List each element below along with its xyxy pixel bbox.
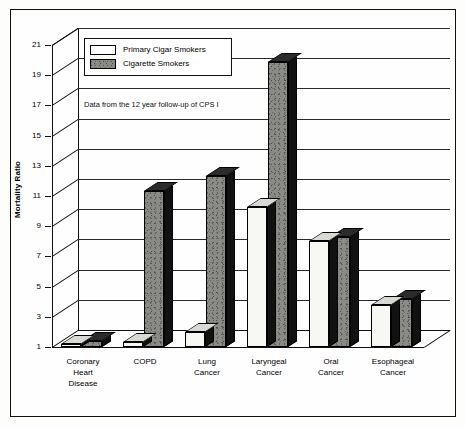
y-axis-tick (45, 317, 51, 318)
bar-side-face (288, 56, 297, 347)
bar-cigarette-smokers (144, 191, 164, 347)
bar-face (123, 342, 143, 347)
gridline-riser (52, 119, 79, 137)
y-axis-tick (45, 287, 51, 288)
y-axis-tick-label: 11 (19, 191, 41, 200)
y-axis-tick-label: 5 (19, 282, 41, 291)
y-axis-tick-label: 21 (19, 40, 41, 49)
gridline-riser (52, 88, 79, 106)
legend-swatch-grey (90, 59, 116, 69)
y-axis-tick-label: 17 (19, 100, 41, 109)
bar-primary-cigar-smokers (309, 241, 329, 347)
y-axis-tick (45, 166, 51, 167)
y-axis-tick (45, 105, 51, 106)
gridline (78, 88, 450, 89)
gridline (78, 119, 450, 120)
bar-face (185, 332, 205, 347)
chart-annotation: Data from the 12 year follow-up of CPS I (84, 100, 219, 109)
y-axis-tick-label: 1 (19, 342, 41, 351)
y-axis-tick-label: 3 (19, 312, 41, 321)
bar-side-face (226, 171, 235, 347)
bar-side-face (412, 293, 421, 347)
bar-face (61, 344, 81, 347)
legend-label-cigarette-smokers: Cigarette Smokers (123, 59, 189, 69)
y-axis-tick (45, 75, 51, 76)
bar-primary-cigar-smokers (371, 305, 391, 347)
bar-face (206, 176, 226, 347)
gridline (78, 149, 450, 150)
bar-primary-cigar-smokers (185, 332, 205, 347)
y-axis-tick-label: 9 (19, 221, 41, 230)
gridline-riser (52, 149, 79, 167)
gridline-riser (52, 28, 79, 46)
bar-face (371, 305, 391, 347)
bar-face (247, 207, 267, 347)
gridline (78, 179, 450, 180)
y-axis-tick-label: 15 (19, 131, 41, 140)
gridline-riser (52, 270, 79, 288)
y-axis-tick-label: 7 (19, 251, 41, 260)
y-axis-tick (45, 196, 51, 197)
bar-side-face (350, 231, 359, 347)
bar-primary-cigar-smokers (123, 342, 143, 347)
y-axis-tick-label: 13 (19, 161, 41, 170)
gridline-riser (52, 58, 79, 76)
bar-face (309, 241, 329, 347)
y-axis-tick-label: 19 (19, 70, 41, 79)
x-axis-category-label: Esophageal Cancer (356, 356, 430, 378)
y-axis-tick (45, 226, 51, 227)
bar-cigarette-smokers (206, 176, 226, 347)
floor-right-edge (424, 330, 451, 348)
bar-primary-cigar-smokers (61, 344, 81, 347)
legend-item-primary-cigar-smokers: Primary Cigar Smokers (90, 43, 226, 57)
figure: Mortality Ratio 13579111315171921Coronar… (0, 0, 466, 427)
legend-swatch-white (90, 45, 116, 55)
bar-face (144, 191, 164, 347)
y-axis-tick (45, 136, 51, 137)
legend-label-primary-cigar-smokers: Primary Cigar Smokers (123, 45, 206, 55)
legend-item-cigarette-smokers: Cigarette Smokers (90, 57, 226, 71)
y-axis-tick (45, 347, 51, 348)
gridline-riser (52, 209, 79, 227)
y-axis-tick (45, 256, 51, 257)
gridline-riser (52, 300, 79, 318)
chart-legend: Primary Cigar Smokers Cigarette Smokers (84, 38, 232, 76)
floor-front-edge (52, 347, 424, 348)
gridline (78, 28, 450, 29)
bar-side-face (391, 299, 400, 347)
bar-side-face (267, 201, 276, 347)
gridline-riser (52, 179, 79, 197)
bar-side-face (329, 235, 338, 347)
plot-area: Mortality Ratio 13579111315171921Coronar… (0, 0, 466, 427)
y-axis-tick (45, 45, 51, 46)
gridline-riser (52, 239, 79, 257)
bar-side-face (164, 186, 173, 347)
bar-primary-cigar-smokers (247, 207, 267, 347)
